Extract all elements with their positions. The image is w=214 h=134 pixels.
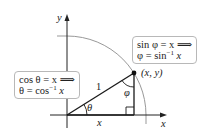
base-label: x [97, 117, 102, 128]
sin-equation: sin φ = x ⟹ [137, 39, 192, 50]
point-label: (x, y) [141, 67, 163, 78]
sin-inverse-box: sin φ = x ⟹ φ = sin−1 x [132, 36, 197, 64]
diagram-canvas [0, 0, 214, 134]
arccos-exponent: −1 [49, 84, 56, 92]
cos-inverse-box: cos θ = x ⟹ θ = cos−1 x [14, 71, 80, 99]
right-angle-mark [126, 107, 134, 115]
arcsin-variable: x [174, 50, 181, 61]
theta-label: θ [87, 102, 92, 113]
y-axis-label: y [57, 12, 62, 23]
x-axis-label: x [161, 118, 166, 129]
arcsin-equation: φ = sin−1 x [137, 50, 192, 61]
arccos-equation: θ = cos−1 x [19, 85, 75, 96]
arcsin-exponent: −1 [167, 49, 174, 57]
arccos-prefix: θ = cos [19, 85, 49, 96]
y-axis-arrow-icon [65, 14, 70, 21]
point-xy [132, 71, 137, 76]
x-axis-arrow-icon [160, 113, 167, 118]
arcsin-prefix: φ = sin [137, 50, 167, 61]
phi-label: φ [124, 87, 130, 98]
arccos-variable: x [57, 85, 64, 96]
cos-equation: cos θ = x ⟹ [19, 74, 75, 85]
hypotenuse-label: 1 [96, 81, 101, 92]
